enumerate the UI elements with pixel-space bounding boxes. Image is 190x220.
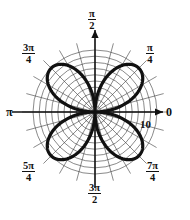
- angle-label-7pi-4: 7π 4: [146, 160, 159, 184]
- polar-plot-figure: π 2 π 4 3π 4 π 0 5π 4 3π 2 7π 4: [0, 0, 190, 220]
- angle-label-5pi-4-denominator: 4: [22, 172, 35, 184]
- angle-label-3pi-2-numerator: 3π: [88, 182, 101, 194]
- angle-label-pi-4-numerator: π: [146, 42, 154, 54]
- axis-arrow-right: [155, 108, 163, 115]
- angle-label-pi-2: π 2: [88, 8, 96, 32]
- radial-tick-label-10: 10: [140, 119, 151, 130]
- angle-label-5pi-4: 5π 4: [22, 160, 35, 184]
- angle-label-5pi-4-numerator: 5π: [22, 160, 35, 172]
- angle-label-pi-2-numerator: π: [88, 8, 96, 20]
- angle-label-3pi-4: 3π 4: [22, 42, 35, 66]
- angle-label-7pi-4-numerator: 7π: [146, 160, 159, 172]
- angle-label-7pi-4-denominator: 4: [146, 172, 159, 184]
- angle-label-3pi-4-numerator: 3π: [22, 42, 35, 54]
- angle-label-pi-4-denominator: 4: [146, 54, 154, 66]
- angle-label-3pi-2-denominator: 2: [88, 194, 101, 206]
- angle-label-pi-2-denominator: 2: [88, 20, 96, 32]
- angle-label-3pi-4-denominator: 4: [22, 54, 35, 66]
- angle-label-pi: π: [6, 106, 13, 118]
- angle-label-0: 0: [166, 106, 172, 118]
- angle-label-3pi-2: 3π 2: [88, 182, 101, 206]
- angle-label-pi-4: π 4: [146, 42, 154, 66]
